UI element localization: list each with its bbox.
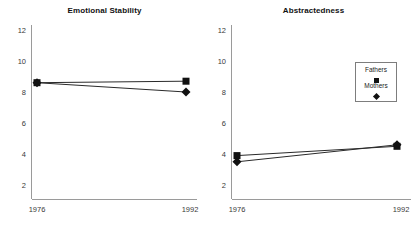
plot-area-emotional-stability: 12 10 8 6 4 2 1976 1992 (0, 0, 209, 226)
y-tick-labels: 12 10 8 6 4 2 (18, 26, 26, 190)
series-fathers (34, 78, 190, 87)
chart-panel-emotional-stability: Emotional Stability 12 10 8 6 4 2 1976 1… (0, 0, 209, 226)
y-tick-label: 8 (222, 88, 226, 97)
y-tick-label: 10 (18, 57, 26, 66)
y-tick-label: 4 (22, 150, 26, 159)
legend-swatch (361, 74, 391, 82)
x-tick-label: 1976 (229, 205, 246, 214)
y-tick-label: 6 (22, 119, 26, 128)
x-tick-labels: 1976 1992 (29, 205, 199, 214)
y-tick-labels: 12 10 8 6 4 2 (218, 26, 226, 190)
y-tick-label: 4 (222, 150, 226, 159)
y-tick-label: 6 (222, 119, 226, 128)
x-tick-labels: 1976 1992 (229, 205, 410, 214)
legend: Fathers Mothers (355, 62, 397, 102)
legend-label: Mothers (361, 82, 391, 90)
legend-entry-fathers: Fathers (361, 66, 391, 82)
y-tick-label: 12 (218, 26, 226, 35)
legend-label: Fathers (361, 66, 391, 74)
y-tick-label: 2 (222, 181, 226, 190)
series-fathers (234, 143, 401, 159)
y-tick-label: 10 (218, 57, 226, 66)
x-tick-label: 1992 (182, 205, 199, 214)
diamond-marker-icon (372, 93, 379, 100)
legend-swatch (361, 90, 391, 98)
x-tick-label: 1992 (393, 205, 410, 214)
plot-area-abstractedness: 12 10 8 6 4 2 1976 1992 (209, 0, 418, 226)
series-mothers (233, 140, 402, 166)
legend-entry-mothers: Mothers (361, 82, 391, 98)
y-tick-label: 8 (22, 88, 26, 97)
x-tick-label: 1976 (29, 205, 46, 214)
y-tick-label: 12 (18, 26, 26, 35)
chart-panel-abstractedness: Abstractedness 12 10 8 6 4 2 1976 1992 (209, 0, 418, 226)
y-tick-label: 2 (22, 181, 26, 190)
marker-diamond (182, 88, 191, 97)
marker-square (183, 78, 190, 85)
figure: Emotional Stability 12 10 8 6 4 2 1976 1… (0, 0, 418, 226)
